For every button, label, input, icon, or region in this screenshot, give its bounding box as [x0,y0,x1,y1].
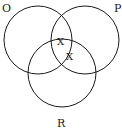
venn-diagram: O P R X X [0,0,122,132]
label-r: R [57,117,66,130]
label-p: P [114,2,122,15]
mark-x-center: X [57,36,65,47]
label-o: O [2,2,11,15]
mark-x-pr: X [66,51,74,62]
circle-r [28,39,96,107]
